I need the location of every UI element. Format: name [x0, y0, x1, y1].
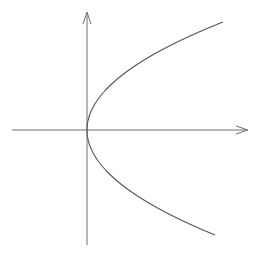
parabola-diagram	[0, 0, 264, 255]
x-axis	[12, 126, 248, 134]
parabola-curve	[87, 22, 223, 235]
